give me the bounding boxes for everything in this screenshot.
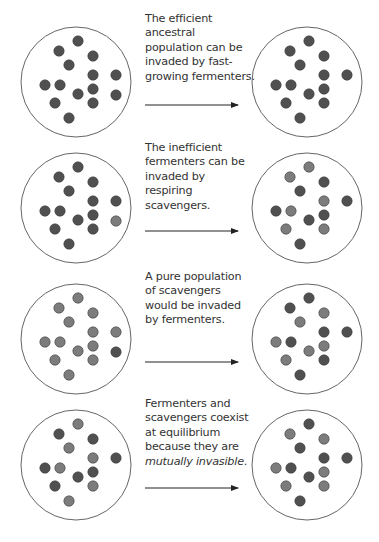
scavenger-cell: [271, 463, 281, 473]
fermenter-cell: [286, 337, 296, 347]
scavenger-cell: [73, 293, 83, 303]
scavenger-cell: [111, 216, 121, 226]
fermenter-cell: [40, 80, 50, 90]
fermenter-cell: [111, 453, 121, 463]
scavenger-cell: [55, 463, 65, 473]
fermenter-cell: [88, 210, 98, 220]
fermenter-cell: [64, 113, 74, 123]
fermenter-cell: [319, 98, 329, 108]
fermenter-cell: [285, 303, 295, 313]
fermenter-cell: [295, 370, 305, 380]
fermenter-cell: [50, 224, 60, 234]
scavenger-cell: [64, 317, 74, 327]
fermenter-cell: [55, 206, 65, 216]
scavenger-cell: [88, 481, 98, 491]
caption-line: by fermenters.: [145, 313, 265, 327]
fermenter-cell: [73, 36, 83, 46]
fermenter-cell: [73, 472, 83, 482]
fermenter-cell: [295, 239, 305, 249]
fermenter-cell: [88, 84, 98, 94]
population-after: [252, 153, 362, 263]
caption-line: invaded by fast-: [145, 55, 265, 69]
fermenter-cell: [55, 80, 65, 90]
fermenter-cell: [40, 206, 50, 216]
fermenter-cell: [319, 453, 329, 463]
caption-line: mutually invasible.: [145, 455, 265, 469]
fermenter-cell: [54, 172, 64, 182]
fermenter-cell: [88, 434, 98, 444]
caption-line: scavengers coexist: [145, 411, 265, 425]
fermenter-cell: [319, 84, 329, 94]
scavenger-cell: [304, 346, 314, 356]
fermenter-cell: [286, 463, 296, 473]
fermenter-cell: [295, 60, 305, 70]
scavenger-cell: [88, 308, 98, 318]
fermenter-cell: [88, 51, 98, 61]
caption-line: Fermenters and: [145, 397, 265, 411]
scavenger-cell: [88, 355, 98, 365]
caption-line: scavengers.: [145, 199, 265, 213]
fermenter-cell: [342, 196, 352, 206]
caption-line: of scavengers: [145, 284, 265, 298]
fermenter-cell: [295, 113, 305, 123]
fermenter-cell: [73, 89, 83, 99]
caption-line: invaded by: [145, 170, 265, 184]
population-after: [252, 27, 362, 137]
scavenger-cell: [319, 341, 329, 351]
fermenter-cell: [304, 215, 314, 225]
fermenter-cell: [271, 80, 281, 90]
fermenter-cell: [271, 206, 281, 216]
fermenter-cell: [319, 327, 329, 337]
scavenger-cell: [271, 337, 281, 347]
fermenter-cell: [295, 186, 305, 196]
fermenter-cell: [73, 215, 83, 225]
population-before: [21, 153, 131, 263]
fermenter-cell: [64, 60, 74, 70]
caption-line: A pure population: [145, 270, 265, 284]
fermenter-cell: [281, 98, 291, 108]
fermenter-cell: [88, 224, 98, 234]
fermenter-cell: [111, 347, 121, 357]
scavenger-cell: [281, 224, 291, 234]
scavenger-cell: [281, 481, 291, 491]
fermenter-cell: [111, 196, 121, 206]
scavenger-cell: [285, 172, 295, 182]
fermenter-cell: [304, 419, 314, 429]
fermenter-cell: [319, 355, 329, 365]
fermenter-cell: [319, 210, 329, 220]
scavenger-cell: [88, 453, 98, 463]
scavenger-cell: [295, 317, 305, 327]
scavenger-cell: [40, 337, 50, 347]
fermenter-cell: [295, 496, 305, 506]
scavenger-cell: [73, 419, 83, 429]
scavenger-cell: [111, 327, 121, 337]
caption-line: The efficient: [145, 12, 265, 26]
caption-line: population can be: [145, 41, 265, 55]
population-before: [21, 27, 131, 137]
caption-row-1: The efficientancestralpopulation can bei…: [145, 12, 265, 84]
fermenter-cell: [64, 186, 74, 196]
fermenter-cell: [304, 472, 314, 482]
fermenter-cell: [319, 70, 329, 80]
caption-line: The inefficient: [145, 141, 265, 155]
scavenger-cell: [64, 370, 74, 380]
fermenter-cell: [73, 162, 83, 172]
scavenger-cell: [319, 481, 329, 491]
fermenter-cell: [319, 177, 329, 187]
fermenter-cell: [88, 467, 98, 477]
fermenter-cell: [285, 46, 295, 56]
fermenter-cell: [50, 481, 60, 491]
scavenger-cell: [54, 303, 64, 313]
scavenger-cell: [64, 443, 74, 453]
fermenter-cell: [54, 46, 64, 56]
fermenter-cell: [50, 98, 60, 108]
scavenger-cell: [88, 327, 98, 337]
fermenter-cell: [88, 196, 98, 206]
scavenger-cell: [304, 162, 314, 172]
population-after: [252, 410, 362, 520]
fermenter-cell: [64, 239, 74, 249]
fermenter-cell: [111, 90, 121, 100]
caption-line: because they are: [145, 440, 265, 454]
fermenter-cell: [295, 443, 305, 453]
caption-line: respiring: [145, 184, 265, 198]
